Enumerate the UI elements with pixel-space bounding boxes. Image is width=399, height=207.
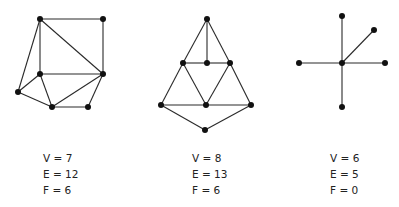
vertex (100, 16, 106, 22)
edge (161, 105, 205, 130)
vertex (37, 71, 43, 77)
vertex (371, 27, 377, 33)
vertex (339, 13, 345, 19)
vertex (49, 104, 55, 110)
edge (205, 105, 251, 130)
vertex-count: V = 6 (330, 150, 359, 166)
vertex (204, 60, 210, 66)
graph-3-stats: V = 6 E = 5 F = 0 (330, 150, 359, 198)
vertex (339, 104, 345, 110)
edge (40, 19, 103, 74)
vertex (202, 127, 208, 133)
edge (342, 30, 374, 63)
edge (18, 19, 40, 92)
vertex (227, 60, 233, 66)
vertex-count: V = 8 (192, 150, 227, 166)
vertex (15, 89, 21, 95)
vertex (85, 104, 91, 110)
vertex (37, 16, 43, 22)
vertex (296, 60, 302, 66)
graph-1 (15, 16, 106, 110)
vertex (180, 60, 186, 66)
edge-count: E = 5 (330, 166, 359, 182)
face-count: F = 6 (192, 182, 227, 198)
vertex-count: V = 7 (43, 150, 78, 166)
vertex (203, 102, 209, 108)
edge-count: E = 13 (192, 166, 227, 182)
vertex (248, 102, 254, 108)
edge (230, 63, 251, 105)
edge (206, 63, 230, 105)
face-count: F = 0 (330, 182, 359, 198)
edge (18, 74, 40, 92)
graph-3 (296, 13, 388, 110)
vertex (339, 60, 345, 66)
vertex (158, 102, 164, 108)
vertex (382, 60, 388, 66)
edge (207, 19, 230, 63)
vertex (100, 71, 106, 77)
vertex (204, 16, 210, 22)
edge (183, 63, 206, 105)
graph-2-stats: V = 8 E = 13 F = 6 (192, 150, 227, 198)
graph-2 (158, 16, 254, 133)
edge-count: E = 12 (43, 166, 78, 182)
face-count: F = 6 (43, 182, 78, 198)
edge (183, 19, 207, 63)
edge (161, 63, 183, 105)
graph-1-stats: V = 7 E = 12 F = 6 (43, 150, 78, 198)
